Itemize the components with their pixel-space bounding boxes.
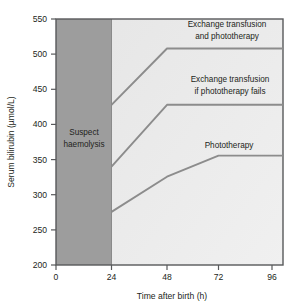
annotation-phototherapy: Phototherapy [205, 141, 255, 150]
band-label-suspect-haemolysis-line2: haemolysis [64, 140, 105, 149]
annotation-exchange-transfusion-and-phototherapy-line2: and phototherapy [195, 32, 260, 41]
annotation-exchange-transfusion-if-phototherapy-fails-line2: if phototherapy fails [194, 87, 265, 96]
y-tick-label-300: 300 [33, 190, 48, 200]
y-tick-label-500: 500 [33, 49, 48, 59]
annotation-exchange-transfusion-and-phototherapy-line1: Exchange transfusion [188, 20, 267, 29]
x-tick-label-0: 0 [54, 272, 59, 282]
annotation-exchange-transfusion-if-phototherapy-fails-line1: Exchange transfusion [191, 75, 270, 84]
y-tick-label-350: 350 [33, 155, 48, 165]
x-tick-label-24: 24 [107, 272, 117, 282]
x-axis-title: Time after birth (h) [137, 291, 207, 301]
y-tick-label-550: 550 [33, 14, 48, 24]
chart-svg: 550 500 450 400 350 300 250 200 0 24 48 … [0, 0, 303, 308]
y-tick-label-400: 400 [33, 119, 48, 129]
plot-background-gradient [112, 19, 284, 265]
x-tick-label-72: 72 [214, 272, 224, 282]
x-axis-ticks [56, 265, 272, 270]
x-tick-label-96: 96 [267, 272, 277, 282]
x-tick-label-48: 48 [162, 272, 172, 282]
y-axis-ticks [51, 19, 56, 265]
band-label-suspect-haemolysis-line1: Suspect [69, 128, 99, 137]
y-tick-label-250: 250 [33, 225, 48, 235]
y-tick-label-450: 450 [33, 84, 48, 94]
bilirubin-threshold-chart: 550 500 450 400 350 300 250 200 0 24 48 … [0, 0, 303, 308]
y-axis-title: Serum bilirubin (µmol/L) [6, 96, 16, 188]
y-tick-label-200: 200 [33, 260, 48, 270]
